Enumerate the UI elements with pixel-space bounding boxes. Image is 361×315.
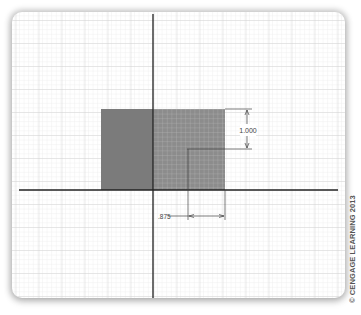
horizontal-dimension-label: .875 xyxy=(158,213,171,220)
dark-rectangle xyxy=(101,109,153,190)
cad-drawing: 1.000 .875 xyxy=(0,0,361,315)
copyright-notice: © CENGAGE LEARNING 2013 xyxy=(348,195,357,303)
vertical-dimension-label: 1.000 xyxy=(239,127,257,134)
